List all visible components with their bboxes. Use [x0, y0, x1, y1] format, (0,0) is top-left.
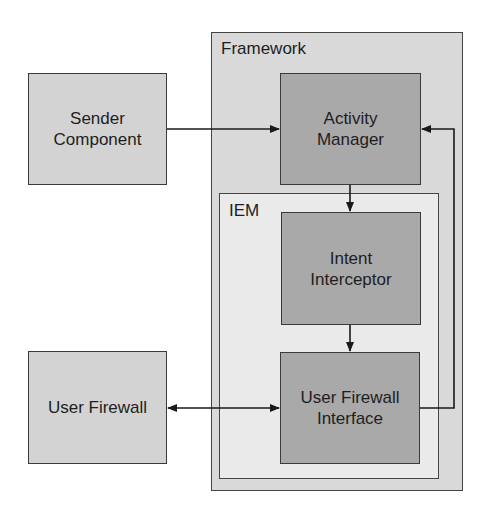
- connector-arrows: [0, 0, 485, 510]
- arrow-ufi-to-activity: [420, 129, 454, 408]
